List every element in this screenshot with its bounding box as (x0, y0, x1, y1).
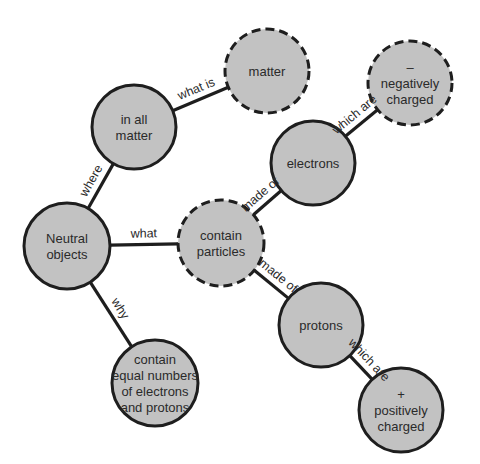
nodes-layer: in allmattermatter–negativelychargedelec… (24, 29, 452, 452)
node-label-line: protons (299, 318, 343, 333)
node-label-line: charged (387, 92, 434, 107)
node-label-line: in all (121, 112, 148, 127)
node-contain-equal: containequal numbersof electronsand prot… (112, 340, 198, 426)
concept-map-canvas: in allmattermatter–negativelychargedelec… (0, 0, 480, 464)
node-label-line: – (406, 60, 414, 75)
node-label-line: equal numbers (112, 368, 198, 383)
node-label-line: Neutral (46, 231, 88, 246)
node-label-line: negatively (381, 76, 440, 91)
node-label-line: positively (374, 403, 428, 418)
node-neutral-objects: Neutralobjects (24, 203, 110, 289)
concept-map: in allmattermatter–negativelychargedelec… (0, 0, 480, 464)
edge-neutral-objects-to-contain-particles (110, 244, 178, 245)
node-electrons: electrons (271, 121, 355, 205)
node-in-all-matter: in allmatter (92, 85, 176, 169)
node-label-line: particles (197, 244, 246, 259)
node-positively-charged: +positivelycharged (359, 368, 443, 452)
node-label-line: contain (200, 228, 242, 243)
node-protons: protons (279, 283, 363, 367)
node-label-line: electrons (287, 156, 340, 171)
edge-label: what is (175, 75, 217, 103)
node-label-line: and protons (121, 400, 190, 415)
node-label-line: objects (46, 247, 88, 262)
edge-label: what (129, 226, 157, 241)
node-matter: matter (225, 29, 309, 113)
node-label-line: + (397, 387, 405, 402)
node-label-line: contain (134, 352, 176, 367)
node-label-line: of electrons (121, 384, 189, 399)
node-contain-particles: containparticles (178, 200, 264, 286)
node-negatively-charged: –negativelycharged (368, 41, 452, 125)
node-label-line: charged (378, 419, 425, 434)
node-label-line: matter (249, 64, 287, 79)
edge-label: where (76, 162, 105, 199)
node-label-line: matter (116, 128, 154, 143)
